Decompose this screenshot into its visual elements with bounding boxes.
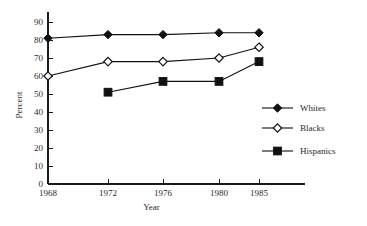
data-point-marker [159, 30, 167, 38]
legend [262, 104, 293, 155]
data-point-marker [274, 147, 282, 155]
x-axis-title: Year [143, 202, 160, 212]
x-tick-label: 1972 [99, 188, 117, 198]
data-point-marker [104, 30, 112, 38]
line-chart: 010203040506070809019681972197619801985Y… [0, 0, 367, 226]
data-point-marker [44, 34, 52, 42]
y-tick-label: 70 [34, 53, 44, 63]
legend-item-blacks [262, 124, 293, 132]
data-point-marker [215, 29, 223, 37]
x-tick-label: 1968 [39, 188, 58, 198]
y-tick-label: 90 [34, 17, 44, 27]
legend-label: Whites [300, 103, 326, 113]
y-tick-label: 40 [34, 107, 44, 117]
legend-item-whites [262, 104, 293, 112]
series-line [48, 33, 259, 38]
data-point-marker [104, 88, 112, 96]
legend-label: Hispanics [300, 146, 336, 156]
series-line [108, 62, 259, 93]
x-tick-label: 1976 [154, 188, 173, 198]
chart-canvas: 010203040506070809019681972197619801985Y… [0, 0, 367, 226]
data-point-marker [215, 78, 223, 86]
series-line [48, 47, 259, 76]
legend-label: Blacks [300, 123, 325, 133]
data-point-marker [159, 78, 167, 86]
y-tick-label: 30 [34, 125, 44, 135]
y-tick-label: 60 [34, 71, 44, 81]
axes [48, 12, 305, 184]
x-tick-label: 1980 [210, 188, 229, 198]
data-point-marker [273, 104, 281, 112]
data-point-marker [255, 29, 263, 37]
data-point-marker [255, 43, 263, 51]
y-tick-label: 20 [34, 143, 44, 153]
y-tick-label: 50 [34, 89, 44, 99]
legend-item-hispanics [262, 147, 293, 155]
data-point-marker [255, 58, 263, 66]
series-blacks [44, 43, 263, 80]
x-tick-label: 1985 [250, 188, 269, 198]
series-hispanics [104, 58, 263, 96]
data-point-marker [273, 124, 281, 132]
data-point-marker [104, 57, 112, 65]
y-tick-label: 10 [34, 161, 44, 171]
data-point-marker [44, 72, 52, 80]
x-axis-ticks [108, 179, 259, 184]
y-tick-label: 80 [34, 35, 44, 45]
data-point-marker [159, 57, 167, 65]
data-point-marker [215, 54, 223, 62]
y-axis-title: Percent [14, 91, 24, 118]
series-group [44, 29, 263, 96]
y-axis-ticks [48, 22, 53, 184]
series-whites [44, 29, 263, 43]
